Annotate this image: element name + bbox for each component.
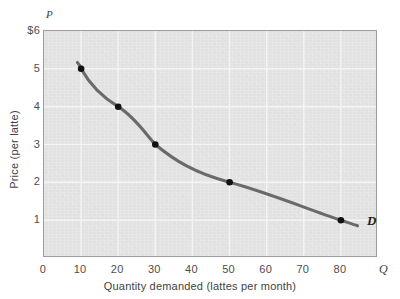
x-tick-label: 50 xyxy=(209,264,249,275)
data-point xyxy=(226,179,233,186)
x-tick-label: 60 xyxy=(246,264,286,275)
data-point xyxy=(78,66,85,73)
y-tick-label: $6 xyxy=(0,25,40,36)
y-tick-label: 5 xyxy=(0,63,40,74)
y-tick-label: 4 xyxy=(0,101,40,112)
data-point xyxy=(152,141,159,148)
y-tick-label: 3 xyxy=(0,139,40,150)
x-tick-label: 10 xyxy=(60,264,100,275)
x-tick-label: 70 xyxy=(283,264,323,275)
x-tick-label: 80 xyxy=(320,264,360,275)
y-axis-tick-labels: $6 5 4 3 2 1 xyxy=(0,0,40,299)
x-tick-label: 0 xyxy=(23,264,63,275)
plot-graphics xyxy=(44,31,377,257)
horizontal-gridlines xyxy=(44,69,377,220)
x-tick-label: 30 xyxy=(134,264,174,275)
y-axis-title: Price (per latte) xyxy=(9,90,20,210)
data-point xyxy=(115,103,122,110)
x-axis-tick-labels: 0 10 20 30 40 50 60 70 80 xyxy=(0,264,400,278)
demand-curve-figure: P Q D $6 5 4 3 2 1 0 10 20 30 40 50 60 7… xyxy=(0,0,400,299)
data-point xyxy=(338,217,345,224)
demand-curve-label: D xyxy=(367,213,376,229)
y-tick-label: 1 xyxy=(0,214,40,225)
x-tick-label: 20 xyxy=(97,264,137,275)
x-tick-label: 40 xyxy=(171,264,211,275)
y-tick-label: 2 xyxy=(0,176,40,187)
plot-area xyxy=(43,30,377,257)
y-axis-variable-label: P xyxy=(46,8,53,20)
x-axis-title: Quantity demanded (lattes per month) xyxy=(0,281,400,292)
